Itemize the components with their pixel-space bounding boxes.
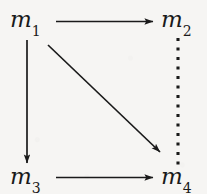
commutative-diagram: m1 m2 m3 m4 [0,0,207,194]
node-m3: m3 [10,165,41,192]
node-m4-base: m [161,163,183,189]
node-m1: m1 [10,8,41,35]
edge-m1-to-m4 [48,45,160,152]
node-m4-subscript: 4 [183,180,192,194]
node-m2-subscript: 2 [183,23,192,39]
node-m4: m4 [161,165,192,192]
node-m1-subscript: 1 [32,23,41,39]
node-m2-base: m [161,6,183,32]
node-m3-subscript: 3 [32,180,41,194]
node-m1-base: m [10,6,32,32]
node-m3-base: m [10,163,32,189]
node-m2: m2 [161,8,192,35]
